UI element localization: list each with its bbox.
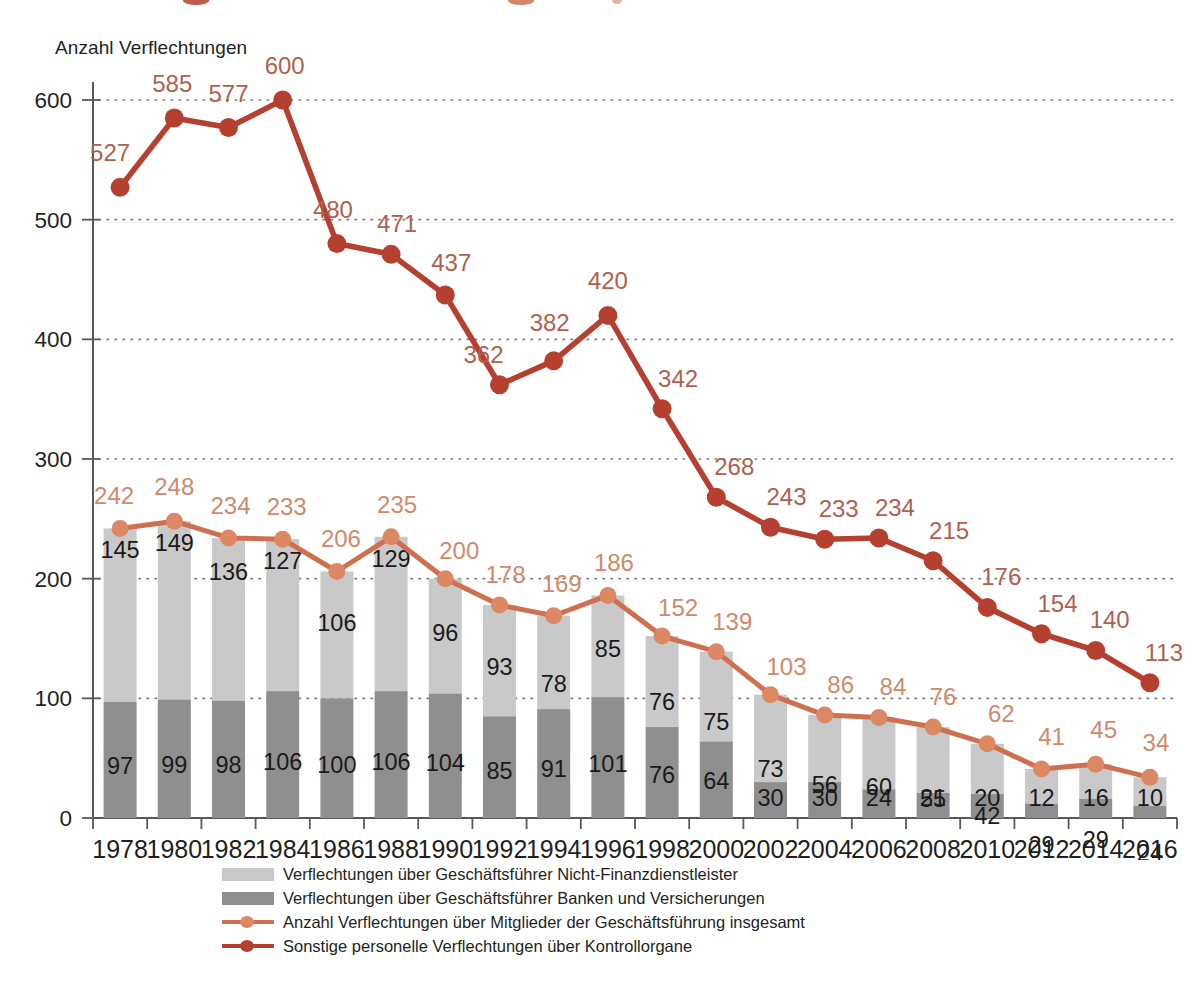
chart-svg: 0100200300400500600 14597149991369812710… <box>0 0 1195 860</box>
legend-label-0: Verflechtungen über Geschäftsführer Nich… <box>283 865 738 884</box>
red-line-label: 233 <box>819 495 859 522</box>
series-marker <box>815 530 834 549</box>
red-line-label: 527 <box>90 139 130 166</box>
red-line-label: 585 <box>152 70 192 97</box>
bar-label-dark: 20 <box>974 785 1000 811</box>
series-marker <box>870 709 887 726</box>
legend-line-orange-dot <box>240 916 254 928</box>
x-tick-label: 2010 <box>959 835 1015 860</box>
orange-line-label: 178 <box>485 561 525 588</box>
orange-line-label: 84 <box>880 673 907 700</box>
x-tick-label: 2016 <box>1122 835 1178 860</box>
y-axis: 0100200300400500600 <box>34 82 100 831</box>
red-line-label: 243 <box>766 483 806 510</box>
series-marker <box>869 528 888 547</box>
red-line-label: 342 <box>658 365 698 392</box>
y-tick-label: 0 <box>59 806 72 831</box>
series-marker <box>328 563 345 580</box>
bar-label-dark: 85 <box>486 758 512 784</box>
orange-line-label: 206 <box>321 525 361 552</box>
orange-line-label: 233 <box>267 493 307 520</box>
x-tick-label: 1994 <box>526 835 582 860</box>
series-marker <box>653 399 672 418</box>
series-marker <box>654 628 671 645</box>
y-tick-label: 600 <box>34 88 72 113</box>
red-line-label: 471 <box>377 210 417 237</box>
x-tick-label: 1982 <box>201 835 257 860</box>
x-tick-label: 2008 <box>905 835 961 860</box>
bar-label-light: 78 <box>541 671 567 697</box>
red-line-label: 215 <box>929 517 969 544</box>
bar-label-dark: 100 <box>317 752 356 778</box>
bar-label-dark: 10 <box>1137 785 1163 811</box>
orange-line-label: 234 <box>210 492 250 519</box>
red-line-label: 362 <box>463 341 503 368</box>
orange-line-label: 186 <box>594 549 634 576</box>
orange-line-label: 169 <box>542 570 582 597</box>
bar-label-dark: 21 <box>920 785 946 811</box>
bar-label-dark: 104 <box>426 750 465 776</box>
bar-label-light: 127 <box>263 548 302 574</box>
red-line-label: 382 <box>530 309 570 336</box>
bar-label-light: 96 <box>432 620 458 646</box>
x-tick-label: 2006 <box>851 835 907 860</box>
red-line-label: 577 <box>208 80 248 107</box>
series-marker <box>220 529 237 546</box>
bar-label-dark: 30 <box>812 785 838 811</box>
series-marker <box>545 607 562 624</box>
bar-label-light: 93 <box>486 654 512 680</box>
series-marker <box>111 178 130 197</box>
bar-label-light: 145 <box>100 537 139 563</box>
legend-line-red-dot <box>240 940 254 952</box>
series-marker <box>274 531 291 548</box>
series-marker <box>165 108 184 127</box>
series-marker <box>273 91 292 110</box>
series-marker <box>1033 760 1050 777</box>
series-marker <box>1086 641 1105 660</box>
orange-line-label: 139 <box>712 608 752 635</box>
red-line-label: 176 <box>981 563 1021 590</box>
series-marker <box>1032 624 1051 643</box>
orange-line-label: 45 <box>1090 716 1117 743</box>
bar-label-dark: 24 <box>866 785 892 811</box>
series-marker <box>1140 673 1159 692</box>
series-marker <box>979 735 996 752</box>
series-marker <box>599 587 616 604</box>
legend-item-banken-versicherungen: Verflechtungen über Geschäftsführer Bank… <box>222 886 1022 910</box>
legend-item-nicht-finanzdienstleister: Verflechtungen über Geschäftsführer Nich… <box>222 862 1022 886</box>
series-marker <box>437 570 454 587</box>
x-tick-label: 1990 <box>417 835 473 860</box>
legend-label-1: Verflechtungen über Geschäftsführer Bank… <box>283 889 765 908</box>
orange-line-label: 103 <box>766 653 806 680</box>
series-marker <box>1087 756 1104 773</box>
red-line-label: 154 <box>1037 590 1077 617</box>
x-tick-label: 1978 <box>92 835 148 860</box>
legend-line-red-icon <box>222 938 274 954</box>
x-tick-label: 1998 <box>634 835 690 860</box>
red-line-label: 268 <box>714 453 754 480</box>
red-line-label: 600 <box>265 52 305 79</box>
x-tick-label: 2014 <box>1068 835 1124 860</box>
series-marker <box>491 596 508 613</box>
legend-swatch-light-icon <box>222 868 274 881</box>
bar-label-light: 76 <box>649 689 675 715</box>
bar-label-dark: 99 <box>161 752 187 778</box>
x-tick-label: 2000 <box>688 835 744 860</box>
orange-line-label: 86 <box>827 671 854 698</box>
y-tick-label: 300 <box>34 447 72 472</box>
series-marker <box>112 520 129 537</box>
orange-line-label: 34 <box>1143 729 1170 756</box>
series-marker <box>708 643 725 660</box>
chart-plot-area: 0100200300400500600 14597149991369812710… <box>0 0 1195 860</box>
bar-label-dark: 106 <box>263 749 302 775</box>
red-line-label: 480 <box>313 196 353 223</box>
chart-page: Anzahl Verflechtungen 010020030040050060… <box>0 0 1195 988</box>
x-axis <box>93 818 1177 829</box>
series-marker <box>382 245 401 264</box>
bar-label-light: 136 <box>209 559 248 585</box>
y-tick-label: 400 <box>34 327 72 352</box>
bar-label-dark: 91 <box>541 756 567 782</box>
legend-label-2: Anzahl Verflechtungen über Mitglieder de… <box>283 913 805 932</box>
bar-label-dark: 76 <box>649 762 675 788</box>
x-tick-label: 1980 <box>146 835 202 860</box>
